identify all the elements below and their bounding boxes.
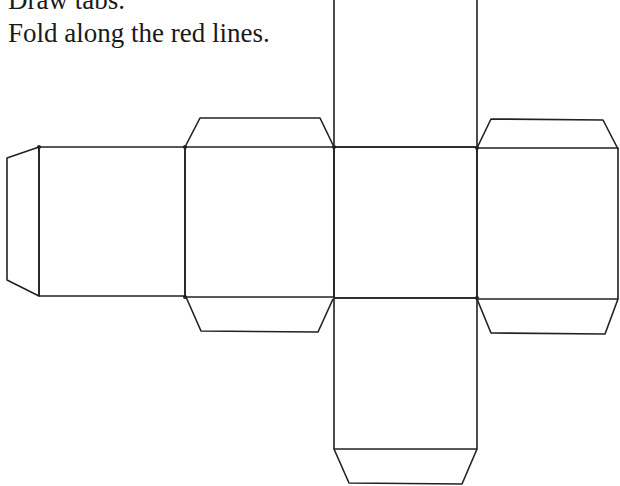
face-front — [185, 147, 334, 297]
tab-right-bottom — [477, 299, 618, 334]
cube-net-diagram — [0, 0, 620, 486]
face-left — [39, 147, 185, 296]
corner-dot — [475, 296, 479, 300]
corner-dot — [37, 145, 41, 149]
corner-dot — [183, 295, 187, 299]
corner-dot — [183, 145, 187, 149]
face-bottom — [334, 298, 477, 449]
corner-dot — [475, 146, 479, 150]
tab-left — [7, 147, 39, 296]
tab-right-top — [477, 119, 618, 149]
face-top — [334, 0, 477, 147]
tab-bottom — [334, 449, 477, 484]
corner-dot — [332, 145, 336, 149]
tab-front-bottom — [186, 297, 333, 332]
face-center — [334, 147, 477, 298]
face-right — [477, 148, 618, 299]
tab-front-top — [185, 118, 334, 147]
